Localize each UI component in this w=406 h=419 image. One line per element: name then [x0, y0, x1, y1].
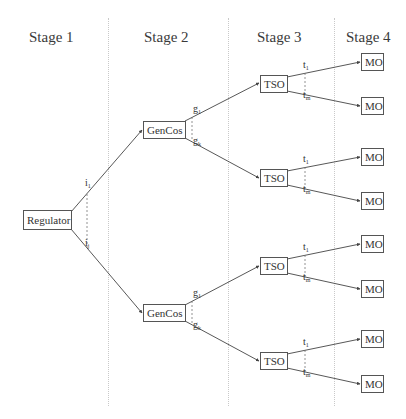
edge-regulator-gencos-bottom	[71, 229, 142, 313]
label-i-1: i1	[85, 178, 91, 191]
node-mo-8: MO	[361, 375, 384, 393]
label-g-k-bottom: gk	[193, 320, 201, 333]
node-mo-5: MO	[361, 235, 384, 253]
label-g-1-top: g1	[193, 104, 201, 117]
label-t-m-tso3: tm	[303, 272, 310, 285]
node-tso-1: TSO	[260, 75, 288, 93]
label-i-j: ij	[85, 238, 89, 251]
node-gencos-bottom: GenCos	[143, 304, 186, 322]
node-tso-2: TSO	[260, 169, 288, 187]
node-mo-2: MO	[361, 97, 384, 115]
node-regulator: Regulator	[23, 210, 72, 230]
label-t-m-tso4: tm	[303, 367, 310, 380]
label-t-1-tso2: t1	[303, 154, 309, 167]
label-t-m-tso2: tm	[303, 184, 310, 197]
node-tso-3: TSO	[260, 257, 288, 275]
edge-regulator-gencos-top	[71, 130, 142, 212]
node-mo-4: MO	[361, 192, 384, 210]
node-tso-4: TSO	[260, 352, 288, 370]
label-t-1-tso1: t1	[303, 60, 309, 73]
label-g-k-top: gk	[193, 136, 201, 149]
node-mo-3: MO	[361, 148, 384, 166]
node-mo-6: MO	[361, 280, 384, 298]
node-mo-1: MO	[361, 53, 384, 71]
label-g-1-bottom: g1	[193, 288, 201, 301]
label-t-m-tso1: tm	[303, 90, 310, 103]
node-gencos-top: GenCos	[143, 121, 186, 139]
label-t-1-tso3: t1	[303, 242, 309, 255]
label-t-1-tso4: t1	[303, 337, 309, 350]
node-mo-7: MO	[361, 330, 384, 348]
